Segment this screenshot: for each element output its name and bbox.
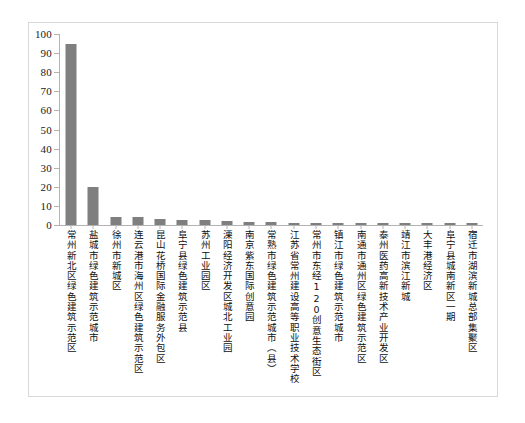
x-tick-label: 常州新北区绿色建筑示范区	[60, 230, 82, 358]
x-tick-mark	[71, 225, 72, 229]
x-tick-label: 连云港市海州区绿色建筑示范区	[127, 230, 149, 378]
x-tick-label-text: 宿迁市湖滨新城总部集聚区	[467, 230, 477, 354]
bar-slot[interactable]	[105, 34, 127, 225]
plot-area: 0102030405060708090100	[59, 34, 483, 225]
x-tick-label: 昆山花桥国际金融服务外包区	[149, 230, 171, 368]
x-tick-label: 溧阳经济开发区城北工业园	[216, 230, 238, 358]
x-tick-mark	[226, 225, 227, 229]
y-tick-label: 50	[41, 124, 52, 136]
x-tick-label-text: 苏州工业园区	[200, 230, 210, 292]
bar-slot[interactable]	[394, 34, 416, 225]
x-tick-label: 徐州市新城区	[105, 230, 127, 296]
x-tick-mark	[293, 225, 294, 229]
x-tick-label: 镇江市绿色建筑示范城市	[327, 230, 349, 347]
bar-slot[interactable]	[416, 34, 438, 225]
chart-frame: 0102030405060708090100 常州新北区绿色建筑示范区盐城市绿色…	[28, 22, 498, 397]
x-tick-mark	[249, 225, 250, 229]
x-tick-mark	[449, 225, 450, 229]
x-tick-mark	[316, 225, 317, 229]
y-tick-mark	[54, 187, 59, 188]
x-tick-mark	[137, 225, 138, 229]
y-tick-label: 0	[46, 219, 52, 231]
y-tick-mark	[54, 149, 59, 150]
x-tick-label-text: 泰州医药高新技术产业开发区	[378, 230, 388, 364]
x-tick-label-text: 连云港市海州区绿色建筑示范区	[133, 230, 143, 374]
bar-slot[interactable]	[260, 34, 282, 225]
x-tick-label-text: 南通市通州区绿色建筑示范区	[356, 230, 366, 364]
bar-slot[interactable]	[349, 34, 371, 225]
bar-series	[60, 34, 483, 225]
x-tick-label: 江苏省常州建设高等职业技术学校	[283, 230, 305, 389]
y-tick-mark	[54, 72, 59, 73]
bar-slot[interactable]	[438, 34, 460, 225]
y-tick-label: 20	[41, 181, 52, 193]
x-tick-label-text: 常州市东经120创意生态街区	[311, 230, 321, 377]
x-tick-mark	[382, 225, 383, 229]
x-tick-label-text: 常州新北区绿色建筑示范区	[66, 230, 76, 354]
x-tick-mark	[204, 225, 205, 229]
x-tick-label-text: 常熟市绿色建筑示范城市（县）	[267, 230, 277, 374]
bar[interactable]	[66, 44, 77, 225]
y-tick-label: 60	[41, 104, 52, 116]
x-tick-label-text: 江苏省常州建设高等职业技术学校	[289, 230, 299, 385]
x-tick-label: 宿迁市湖滨新城总部集聚区	[461, 230, 483, 358]
bar-slot[interactable]	[171, 34, 193, 225]
x-tick-label-text: 溧阳经济开发区城北工业园	[222, 230, 232, 354]
y-tick-label: 10	[41, 200, 52, 212]
x-axis-labels: 常州新北区绿色建筑示范区盐城市绿色建筑示范城市徐州市新城区连云港市海州区绿色建筑…	[60, 230, 483, 390]
x-tick-label-text: 阜宁县绿色建筑示范县	[177, 230, 187, 333]
x-tick-mark	[471, 225, 472, 229]
y-tick-mark	[54, 130, 59, 131]
x-tick-label: 南通市通州区绿色建筑示范区	[349, 230, 371, 368]
x-tick-label-text: 镇江市绿色建筑示范城市	[333, 230, 343, 343]
y-tick-label: 90	[41, 47, 52, 59]
y-tick-label: 30	[41, 162, 52, 174]
bar-slot[interactable]	[283, 34, 305, 225]
bar-slot[interactable]	[216, 34, 238, 225]
x-tick-label: 盐城市绿色建筑示范城市	[82, 230, 104, 347]
bar-slot[interactable]	[149, 34, 171, 225]
bar[interactable]	[132, 217, 143, 225]
x-tick-label: 大丰港经济区	[416, 230, 438, 296]
x-tick-label: 常州市东经120创意生态街区	[305, 230, 327, 381]
y-tick-label: 80	[41, 66, 52, 78]
y-tick-mark	[54, 225, 59, 226]
x-tick-mark	[360, 225, 361, 229]
bar[interactable]	[88, 187, 99, 225]
x-tick-label-text: 南京紫东国际创意园	[244, 230, 254, 323]
x-tick-mark	[427, 225, 428, 229]
x-tick-label: 苏州工业园区	[194, 230, 216, 296]
y-tick-mark	[54, 34, 59, 35]
y-tick-mark	[54, 206, 59, 207]
bar-slot[interactable]	[127, 34, 149, 225]
bar[interactable]	[110, 217, 121, 225]
bar-slot[interactable]	[372, 34, 394, 225]
x-tick-label-text: 靖江市滨江新城	[400, 230, 410, 302]
bar-slot[interactable]	[60, 34, 82, 225]
x-tick-label: 泰州医药高新技术产业开发区	[372, 230, 394, 368]
x-tick-label-text: 昆山花桥国际金融服务外包区	[155, 230, 165, 364]
y-tick-label: 70	[41, 85, 52, 97]
bar-slot[interactable]	[461, 34, 483, 225]
x-tick-mark	[160, 225, 161, 229]
y-tick-mark	[54, 110, 59, 111]
bar-slot[interactable]	[82, 34, 104, 225]
x-tick-label: 常熟市绿色建筑示范城市（县）	[260, 230, 282, 378]
x-tick-mark	[271, 225, 272, 229]
y-tick-mark	[54, 168, 59, 169]
y-tick-label: 40	[41, 143, 52, 155]
y-tick-mark	[54, 53, 59, 54]
bar-slot[interactable]	[305, 34, 327, 225]
y-tick-label: 100	[35, 28, 52, 40]
x-tick-label: 靖江市滨江新城	[394, 230, 416, 306]
x-tick-label: 南京紫东国际创意园	[238, 230, 260, 327]
bar-slot[interactable]	[327, 34, 349, 225]
x-tick-label-text: 阜宁县城南新区一期	[445, 230, 455, 323]
x-tick-mark	[93, 225, 94, 229]
x-tick-mark	[338, 225, 339, 229]
x-tick-label: 阜宁县城南新区一期	[438, 230, 460, 327]
x-tick-label-text: 大丰港经济区	[422, 230, 432, 292]
bar-slot[interactable]	[194, 34, 216, 225]
x-tick-mark	[115, 225, 116, 229]
bar-slot[interactable]	[238, 34, 260, 225]
